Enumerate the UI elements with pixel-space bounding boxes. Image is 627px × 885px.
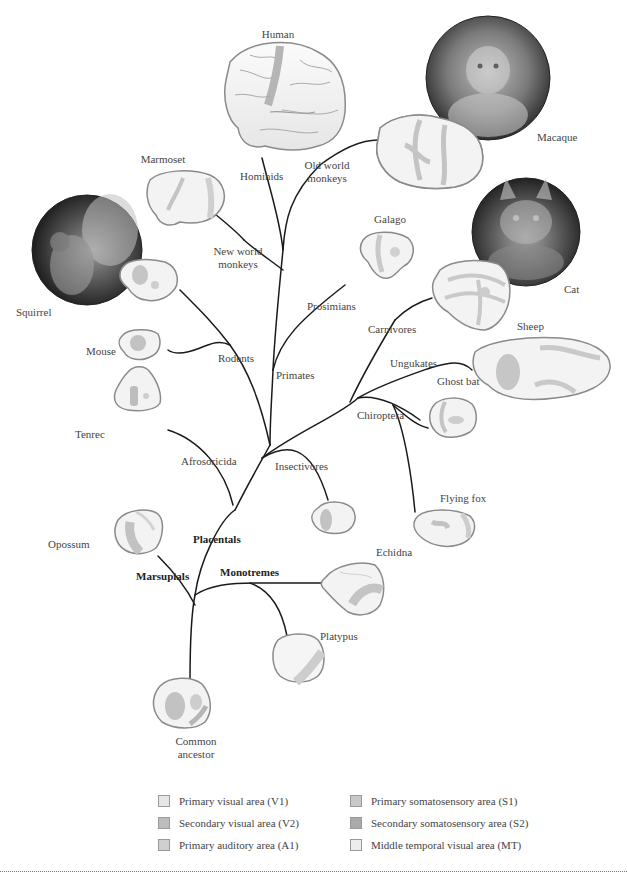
brain-insectivore <box>312 502 355 534</box>
legend-label-s2: Secondary somatosensory area (S2) <box>371 817 528 829</box>
legend-item-v1: Primary visual area (V1) <box>158 795 288 807</box>
clade-insectivores: Insectivores <box>275 460 328 473</box>
clade-hominids: Hominids <box>240 170 283 183</box>
label-opossum: Opossum <box>48 538 90 551</box>
clade-prosimians: Prosimians <box>307 300 356 313</box>
clade-new-world-2: monkeys <box>218 258 258 271</box>
legend-label-mt: Middle temporal visual area (MT) <box>371 839 521 851</box>
label-squirrel: Squirrel <box>16 306 51 319</box>
label-mouse: Mouse <box>86 345 116 358</box>
label-echidna: Echidna <box>376 546 412 559</box>
swatch-v2 <box>158 817 170 829</box>
clade-carnivores: Carnivores <box>368 323 416 336</box>
legend-item-mt: Middle temporal visual area (MT) <box>350 839 521 851</box>
brain-mouse <box>119 330 160 360</box>
label-common-ancestor-2: ancestor <box>178 748 215 761</box>
brain-galago <box>360 232 413 278</box>
brain-flying-fox <box>414 510 475 546</box>
label-tenrec: Tenrec <box>75 428 105 441</box>
swatch-a1 <box>158 839 170 851</box>
clade-rodents: Rodents <box>218 352 254 365</box>
brain-opossum <box>115 510 163 554</box>
label-cat: Cat <box>564 283 579 296</box>
brain-sheep <box>473 338 610 400</box>
legend-item-a1: Primary auditory area (A1) <box>158 839 298 851</box>
swatch-mt <box>350 839 362 851</box>
clade-ungukates: Ungukates <box>390 357 437 370</box>
label-sheep: Sheep <box>517 320 544 333</box>
clade-placentals: Placentals <box>193 533 241 546</box>
clade-old-world-2: monkeys <box>307 172 347 185</box>
label-ghost-bat: Ghost bat <box>437 375 479 388</box>
brain-ghost-bat <box>430 398 477 437</box>
brain-tenrec <box>115 367 161 411</box>
legend-label-v1: Primary visual area (V1) <box>179 795 288 807</box>
label-human: Human <box>262 28 294 41</box>
legend-label-a1: Primary auditory area (A1) <box>179 839 298 851</box>
label-flying-fox: Flying fox <box>440 492 486 505</box>
clade-marsupials: Marsupials <box>136 570 189 583</box>
label-common-ancestor-1: Common <box>176 735 217 748</box>
swatch-s2 <box>350 817 362 829</box>
label-platypus: Platypus <box>320 630 358 643</box>
legend-label-s1: Primary somatosensory area (S1) <box>371 795 517 807</box>
clade-old-world-1: Old world <box>305 159 350 172</box>
legend-item-s1: Primary somatosensory area (S1) <box>350 795 517 807</box>
brain-platypus <box>273 634 324 682</box>
clade-chiroptera: Chiroptera <box>357 409 404 422</box>
brain-cat <box>433 261 510 330</box>
clade-monotremes: Monotremes <box>220 566 279 579</box>
brain-human <box>225 43 346 150</box>
clade-afrosoricida: Afrosoricida <box>181 455 237 468</box>
brain-common-ancestor <box>153 678 210 728</box>
swatch-v1 <box>158 795 170 807</box>
dotted-divider <box>0 871 627 872</box>
label-galago: Galago <box>374 213 406 226</box>
legend-label-v2: Secondary visual area (V2) <box>179 817 299 829</box>
clade-new-world-1: New world <box>213 245 262 258</box>
brain-squirrel <box>120 260 177 301</box>
phylogeny-diagram: Human Macaque Marmoset Galago Cat Squirr… <box>0 0 627 885</box>
label-marmoset: Marmoset <box>141 153 186 166</box>
brain-echidna <box>321 563 383 615</box>
swatch-s1 <box>350 795 362 807</box>
label-macaque: Macaque <box>537 131 577 144</box>
clade-primates: Primates <box>276 369 315 382</box>
legend-item-v2: Secondary visual area (V2) <box>158 817 299 829</box>
legend-item-s2: Secondary somatosensory area (S2) <box>350 817 528 829</box>
brain-marmoset <box>147 171 224 225</box>
